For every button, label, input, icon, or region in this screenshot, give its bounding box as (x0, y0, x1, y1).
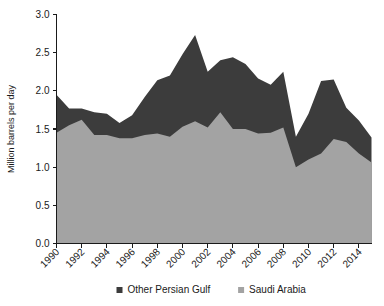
y-axis-title: Million barrels per day (6, 84, 16, 173)
plot-areas (57, 35, 372, 243)
x-tick-label: 1996 (114, 246, 138, 270)
legend-swatch (238, 287, 244, 293)
x-tick-label: 2002 (189, 246, 213, 270)
x-tick-label: 2008 (265, 246, 289, 270)
x-tick-label: 1994 (88, 246, 112, 270)
y-tick-label: 0.0 (36, 238, 50, 249)
x-tick-label: 2014 (340, 246, 364, 270)
legend-label: Other Persian Gulf (128, 284, 211, 295)
y-tick-label: 3.0 (36, 9, 50, 20)
y-tick-label: 0.5 (36, 200, 50, 211)
chart-legend: Other Persian GulfSaudi Arabia (117, 284, 307, 295)
x-tick-label: 2012 (315, 246, 339, 270)
y-axis-ticks: 0.00.51.01.52.02.53.0 (36, 9, 57, 249)
area-chart: 0.00.51.01.52.02.53.0Million barrels per… (0, 0, 384, 306)
y-tick-label: 2.0 (36, 85, 50, 96)
x-tick-label: 2010 (290, 246, 314, 270)
x-tick-label: 1992 (63, 246, 87, 270)
x-tick-label: 1990 (38, 246, 62, 270)
x-tick-label: 2000 (164, 246, 188, 270)
y-tick-label: 1.5 (36, 124, 50, 135)
x-tick-label: 1998 (139, 246, 163, 270)
x-tick-label: 2006 (240, 246, 264, 270)
legend-label: Saudi Arabia (249, 284, 306, 295)
y-tick-label: 1.0 (36, 162, 50, 173)
x-tick-label: 2004 (214, 246, 238, 270)
y-tick-label: 2.5 (36, 47, 50, 58)
x-axis-ticks: 1990199219941996199820002002200420062008… (38, 244, 364, 270)
chart-svg: 0.00.51.01.52.02.53.0Million barrels per… (0, 0, 384, 306)
legend-swatch (117, 287, 123, 293)
